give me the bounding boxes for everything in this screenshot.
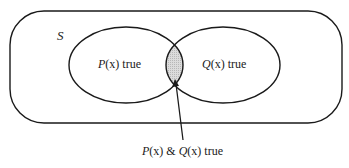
set-q-label: Q(x) true: [202, 57, 246, 72]
pq-ampersand: &: [163, 144, 178, 158]
pq-q-var: (x): [187, 144, 201, 158]
pq-p-var: (x): [149, 144, 163, 158]
universe-label: S: [57, 28, 64, 44]
q-symbol: Q: [202, 57, 211, 71]
p-var: (x): [105, 57, 119, 71]
q-var: (x): [211, 57, 225, 71]
pointer-arrow: [176, 84, 183, 140]
pq-true-text: true: [201, 144, 223, 158]
p-true-text: true: [119, 57, 141, 71]
set-p-label: P(x) true: [98, 57, 141, 72]
intersection-label: P(x) & Q(x) true: [142, 144, 223, 159]
q-true-text: true: [225, 57, 247, 71]
venn-diagram: [0, 0, 349, 168]
